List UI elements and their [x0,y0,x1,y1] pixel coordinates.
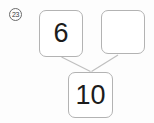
whole-value: 10 [75,80,105,111]
worksheet-item: 23 6 10 [0,0,154,123]
whole-box: 10 [68,72,113,118]
part-box-filled: 6 [39,10,83,57]
connector-line-left [62,57,91,72]
part-value: 6 [53,18,68,49]
connector-line-right [92,55,119,72]
part-box-answer-empty[interactable] [101,10,145,54]
